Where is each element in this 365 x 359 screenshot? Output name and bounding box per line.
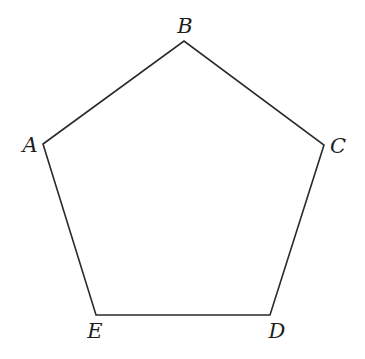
vertex-label-b: B (176, 14, 192, 38)
vertex-label-a: A (20, 133, 37, 157)
pentagon-diagram: A B C D E (0, 0, 365, 359)
vertex-label-e: E (86, 319, 102, 343)
vertex-label-c: C (330, 134, 346, 158)
pentagon-shape (43, 41, 324, 315)
vertex-label-d: D (268, 319, 286, 343)
